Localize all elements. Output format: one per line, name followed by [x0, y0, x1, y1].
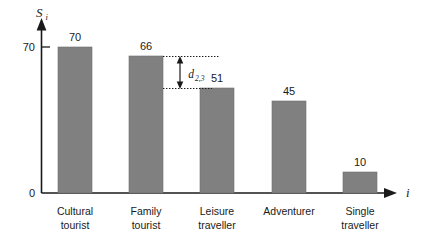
x-category-label-line2-0: tourist	[61, 219, 90, 231]
chart-canvas: S i i 70 0 70 66 51	[0, 0, 425, 243]
y-axis-title-subscript: i	[46, 12, 49, 22]
bar-value-label-adventurer: 45	[283, 85, 295, 97]
x-category-label-line2-4: traveller	[341, 219, 379, 231]
x-category-label-line1-4: Single	[345, 205, 374, 217]
x-category-leisure-traveller: Leisure traveller	[198, 205, 236, 231]
x-category-label-line1-0: Cultural	[57, 205, 93, 217]
bar-chart-figure: S i i 70 0 70 66 51	[0, 0, 425, 243]
x-category-family-tourist: Family tourist	[131, 205, 163, 231]
y-tick-0: 0	[29, 187, 35, 199]
bar-group-family-tourist: 66	[129, 40, 163, 193]
bar-group-cultural-tourist: 70	[58, 31, 92, 193]
bar-value-label-family-tourist: 66	[140, 40, 152, 52]
bar-group-single-traveller: 10	[343, 156, 377, 193]
y-axis-title: S i	[36, 5, 49, 22]
annotation-arrow-up	[177, 56, 184, 64]
y-tick-label-0: 0	[29, 187, 35, 199]
x-category-cultural-tourist: Cultural tourist	[57, 205, 93, 231]
x-axis-title-text: i	[406, 185, 410, 200]
x-category-label-line2-1: tourist	[132, 219, 161, 231]
annotation-arrow-down	[177, 82, 184, 90]
bar-single-traveller	[343, 172, 377, 193]
bar-cultural-tourist	[58, 47, 92, 193]
annotation-label-subscript: 2,3	[195, 74, 205, 83]
bar-family-tourist	[129, 56, 163, 193]
x-category-label-line2-2: traveller	[198, 219, 236, 231]
x-category-adventurer: Adventurer	[263, 205, 315, 217]
y-tick-70: 70	[23, 41, 50, 53]
y-tick-label-70: 70	[23, 41, 35, 53]
annotation-label-d: d	[188, 68, 194, 80]
bar-value-label-cultural-tourist: 70	[69, 31, 81, 43]
bar-group-leisure-traveller: 51	[200, 72, 234, 193]
bar-value-label-leisure-traveller: 51	[211, 72, 223, 84]
x-category-single-traveller: Single traveller	[341, 205, 379, 231]
bar-group-adventurer: 45	[272, 85, 306, 193]
x-category-label-line1-1: Family	[131, 205, 163, 217]
y-axis-title-text: S	[36, 5, 43, 20]
bar-value-label-single-traveller: 10	[354, 156, 366, 168]
x-category-label-line1-2: Leisure	[200, 205, 235, 217]
y-axis	[37, 18, 47, 193]
bar-adventurer	[272, 101, 306, 193]
bar-leisure-traveller	[200, 88, 234, 193]
x-category-label-line1-3: Adventurer	[263, 205, 315, 217]
